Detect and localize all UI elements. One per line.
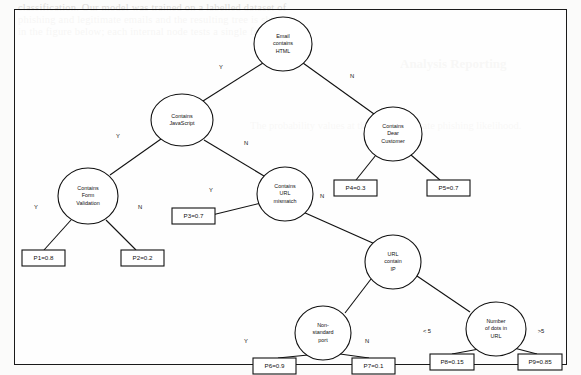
leaf-node-l9[interactable]: P9=0.85 — [518, 354, 562, 370]
node-label-n5-line3: mismatch — [273, 198, 296, 204]
node-label-n4-line1: Contains — [77, 185, 99, 191]
leaf-node-l1[interactable]: P1=0.8 — [22, 250, 65, 266]
node-label-n1-line1: Email — [276, 33, 289, 39]
tree-edge-n8-to-l8 — [452, 349, 479, 354]
tree-edge-n6-to-n8 — [417, 276, 470, 312]
decision-node-n1[interactable]: EmailcontainsHTML — [254, 17, 312, 71]
tree-edge-n5-to-l3 — [212, 203, 261, 215]
edge-label-n1-to-n3: N — [350, 73, 354, 79]
figure-root: classification. Our model was trained on… — [0, 0, 581, 375]
decision-node-n5[interactable]: ContainsURLmismatch — [257, 167, 313, 221]
leaf-label-l2: P2=0.2 — [133, 254, 153, 261]
leaf-label-l6: P6=0.9 — [265, 362, 285, 369]
edge-label-n1-to-n2: Y — [219, 64, 223, 70]
node-label-n6-line2: contain — [384, 258, 401, 264]
node-label-n4-line3: Validation — [76, 200, 99, 206]
leaf-node-l6[interactable]: P6=0.9 — [253, 358, 296, 374]
tree-edge-n4-to-l2 — [106, 220, 136, 250]
leaf-label-l9: P9=0.85 — [528, 358, 552, 365]
decision-tree-canvas: EmailcontainsHTMLContainsJavaScriptConta… — [0, 0, 581, 375]
node-label-n7-line2: standard — [313, 329, 334, 335]
leaf-label-l4: P4=0.3 — [346, 184, 366, 191]
node-label-n5-line1: Contains — [274, 183, 296, 189]
edge-label-n8-to-l8: < 5 — [423, 328, 431, 334]
node-label-n2-line1: Contains — [171, 113, 193, 119]
leaf-label-l1: P1=0.8 — [34, 254, 54, 261]
node-label-n3-line3: Customer — [381, 138, 405, 144]
tree-edge-n1-to-n3 — [303, 63, 374, 114]
leaf-node-l4[interactable]: P4=0.3 — [334, 180, 377, 196]
edge-label-n2-to-n5: N — [244, 140, 248, 146]
decision-node-n8[interactable]: Numberof dots inURL — [466, 302, 526, 356]
decision-node-n3[interactable]: ContainsDearCustomer — [364, 107, 422, 161]
decision-node-n7[interactable]: Non-standardport — [295, 306, 351, 360]
node-label-n6-line3: IP — [390, 266, 395, 272]
edge-label-n7-to-l7: N — [365, 338, 369, 344]
leaf-label-l5: P5=0.7 — [439, 184, 459, 191]
tree-edge-n5-to-n6 — [303, 212, 375, 244]
decision-node-n2[interactable]: ContainsJavaScript — [151, 94, 213, 146]
edge-label-n4-to-l2: N — [138, 204, 142, 210]
node-label-n7-line1: Non- — [317, 322, 329, 328]
node-label-n8-line1: Number — [486, 318, 505, 324]
edge-label-n2-to-n4: Y — [116, 133, 120, 139]
edge-label-n5-to-l3: Y — [209, 187, 213, 193]
tree-edge-n1-to-n2 — [203, 63, 263, 101]
leaf-node-l3[interactable]: P3=0.7 — [172, 208, 215, 224]
edge-label-n8-to-l9: >5 — [538, 328, 545, 334]
decision-node-n4[interactable]: ContainsFormValidation — [58, 168, 118, 224]
leaf-node-l5[interactable]: P5=0.7 — [427, 180, 470, 196]
node-label-n1-line2: contains — [273, 40, 293, 46]
leaf-node-l7[interactable]: P7=0.1 — [352, 358, 395, 374]
tree-edge-n7-to-l7 — [340, 354, 369, 358]
edge-label-n7-to-l6: Y — [244, 338, 248, 344]
tree-edge-n3-to-l5 — [411, 155, 440, 180]
leaf-label-l7: P7=0.1 — [364, 362, 384, 369]
decision-node-n6[interactable]: URLcontainIP — [365, 235, 421, 289]
tree-edge-n2-to-n5 — [204, 140, 264, 176]
leaf-label-l3: P3=0.7 — [184, 212, 204, 219]
node-label-n2-line2: JavaScript — [169, 120, 195, 126]
node-label-n8-line3: URL — [491, 333, 502, 339]
node-label-n6-line1: URL — [388, 251, 399, 257]
node-label-n3-line1: Contains — [382, 123, 404, 129]
edge-label-n5-to-n6: N — [320, 193, 324, 199]
leaf-label-l8: P8=0.15 — [440, 358, 464, 365]
node-label-n7-line3: port — [318, 337, 328, 343]
tree-edge-n2-to-n4 — [110, 139, 161, 175]
tree-edge-n3-to-l4 — [356, 155, 376, 180]
leaf-node-l8[interactable]: P8=0.15 — [430, 354, 474, 370]
node-label-n4-line2: Form — [82, 192, 95, 198]
tree-edge-n4-to-l1 — [44, 220, 71, 250]
tree-edge-n8-to-l9 — [514, 348, 537, 354]
node-label-n8-line2: of dots in — [485, 325, 507, 331]
tree-edge-n6-to-n7 — [345, 279, 371, 313]
edge-label-n4-to-l1: Y — [34, 204, 38, 210]
leaf-node-l2[interactable]: P2=0.2 — [121, 250, 164, 266]
node-label-n3-line2: Dear — [387, 130, 399, 136]
node-label-n5-line2: URL — [280, 190, 291, 196]
node-label-n1-line3: HTML — [276, 48, 291, 54]
